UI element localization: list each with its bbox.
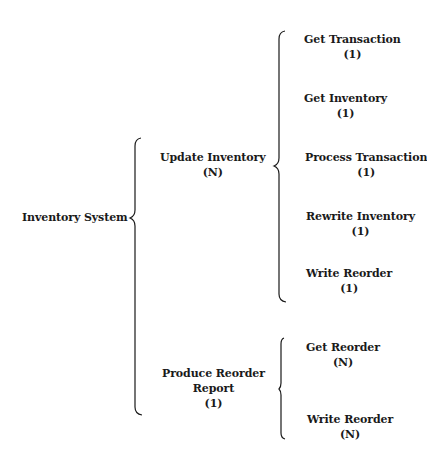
node-label: Update Inventory bbox=[160, 150, 266, 165]
node-count: (1) bbox=[306, 281, 392, 296]
node-count: (1) bbox=[305, 165, 427, 180]
node-count: (1) bbox=[304, 47, 401, 62]
node-count: (1) bbox=[304, 106, 387, 121]
node-label: Get Transaction bbox=[304, 32, 401, 47]
node-count: (N) bbox=[306, 355, 380, 370]
node-label: Get Inventory bbox=[304, 91, 387, 106]
node-get-transaction: Get Transaction (1) bbox=[304, 32, 401, 62]
node-get-inventory: Get Inventory (1) bbox=[304, 91, 387, 121]
node-label: Write Reorder bbox=[306, 266, 392, 281]
brace-root bbox=[130, 138, 142, 415]
node-write-reorder-2: Write Reorder (N) bbox=[307, 412, 393, 442]
brace-update-inventory bbox=[274, 31, 286, 302]
node-count: (1) bbox=[162, 396, 265, 411]
node-label: Inventory System bbox=[22, 210, 128, 225]
node-count: (1) bbox=[306, 224, 415, 239]
node-count: (N) bbox=[307, 427, 393, 442]
node-update-inventory: Update Inventory (N) bbox=[160, 150, 266, 180]
node-label: Rewrite Inventory bbox=[306, 209, 415, 224]
node-label: Get Reorder bbox=[306, 340, 380, 355]
node-label: Process Transaction bbox=[305, 150, 427, 165]
node-inventory-system: Inventory System bbox=[22, 210, 128, 225]
brace-produce-reorder-report bbox=[279, 338, 285, 439]
node-produce-reorder-report: Produce Reorder Report (1) bbox=[162, 366, 265, 411]
node-write-reorder-1: Write Reorder (1) bbox=[306, 266, 392, 296]
node-label: Write Reorder bbox=[307, 412, 393, 427]
node-label-line1: Produce Reorder bbox=[162, 366, 265, 381]
node-process-transaction: Process Transaction (1) bbox=[305, 150, 427, 180]
node-get-reorder: Get Reorder (N) bbox=[306, 340, 380, 370]
node-rewrite-inventory: Rewrite Inventory (1) bbox=[306, 209, 415, 239]
node-count: (N) bbox=[160, 165, 266, 180]
node-label-line2: Report bbox=[162, 381, 265, 396]
